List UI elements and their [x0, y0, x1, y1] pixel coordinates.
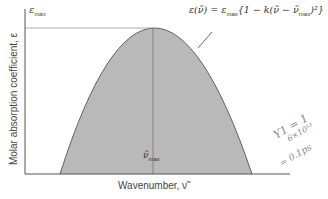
x-axis-label: Wavenumber, ν̃ [118, 180, 187, 191]
eq-sub-2: max [299, 11, 310, 17]
numax-subscript: max [148, 156, 159, 162]
emax-subscript: max [34, 11, 45, 17]
eq-sub-1: max [226, 11, 237, 17]
equation-leader-line [198, 32, 212, 48]
emax-label: εmax [29, 4, 46, 17]
y-axis-label: Molar absorption coefficient, ε [8, 14, 22, 184]
eq-part-2: {1 − k(ν̃ − ν̃ [238, 4, 299, 15]
plot-area [0, 0, 328, 199]
band-equation: ε(ν̃) = εmax{1 − k(ν̃ − ν̃max)²} [189, 4, 324, 17]
eq-part-3: )²} [310, 4, 324, 15]
eq-part-1: ε(ν̃) = ε [189, 4, 226, 15]
numax-label: ν̃max [143, 150, 160, 162]
